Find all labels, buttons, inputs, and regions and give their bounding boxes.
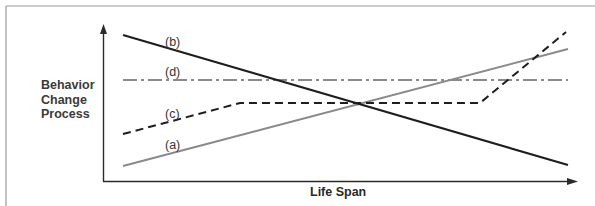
series-b-label: (b): [165, 35, 180, 49]
x-axis-label: Life Span: [310, 185, 366, 199]
series-c-label: (c): [165, 107, 180, 121]
y-axis-label-line-2: Change: [41, 93, 95, 108]
y-axis: [100, 24, 107, 182]
series-a-label: (a): [165, 138, 180, 152]
y-axis-label: Behavior Change Process: [41, 78, 95, 122]
series-b-line: [123, 35, 568, 165]
x-axis: [103, 178, 578, 185]
y-axis-arrow-icon: [100, 24, 107, 34]
series-d-label: (d): [165, 65, 180, 79]
series-c-line: [123, 32, 566, 134]
y-axis-label-line-1: Behavior: [41, 78, 95, 93]
series-a-line: [123, 49, 568, 166]
x-axis-arrow-icon: [567, 178, 578, 185]
y-axis-label-line-3: Process: [41, 107, 95, 122]
figure-frame: (b) (d) (c) (a) Behavior Change Process …: [0, 0, 595, 206]
